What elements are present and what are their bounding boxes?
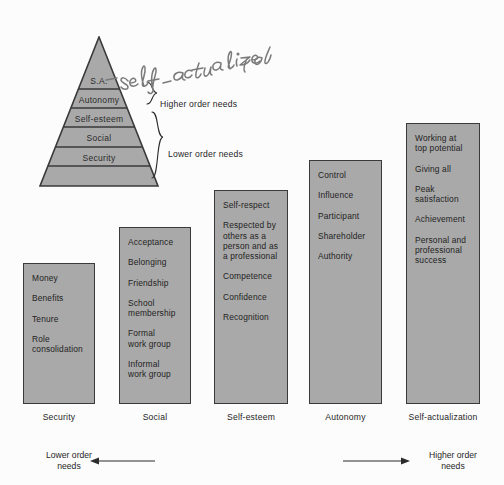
bar-item: Informal work group [128,359,183,380]
footer-lower-order-needs-label: Lower order needs [28,450,110,472]
bar-social: Acceptance Belonging Friendship School m… [119,227,191,404]
handwritten-self-actualized-annotation [104,38,274,96]
bar-item: Authority [318,251,374,261]
bar-item: Personal and professional success [415,235,472,266]
bar-item: Acceptance [128,237,183,247]
bar-item: Peak satisfaction [415,184,472,205]
axis-label-autonomy: Autonomy [309,412,382,422]
bar-item: Money [32,273,87,283]
bar-self-actualization: Working at top potential Giving all Peak… [406,123,480,404]
bar-item: Tenure [32,314,87,324]
bar-item: Giving all [415,164,472,174]
bar-security: Money Benefits Tenure Role consolidation [23,263,95,404]
bar-self-esteem: Self-respect Respected by others as a pe… [214,190,288,404]
bar-item: Self-respect [223,200,280,210]
higher-order-needs-label: Higher order needs [160,99,237,109]
bar-item: Recognition [223,312,280,322]
needs-hierarchy-diagram: S.A. Autonomy Self-esteem Social Securit… [0,0,504,485]
bar-item: Influence [318,190,374,200]
axis-label-self-actualization: Self-actualization [398,412,488,422]
bar-item: Competence [223,271,280,281]
bar-item: Role consolidation [32,334,87,355]
bar-item: Benefits [32,293,87,303]
bar-item: Control [318,170,374,180]
bar-item: Confidence [223,292,280,302]
bar-item: Participant [318,211,374,221]
bar-item: Working at top potential [415,133,472,154]
axis-label-social: Social [119,412,191,422]
axis-label-security: Security [23,412,95,422]
lower-order-needs-label: Lower order needs [168,149,243,159]
bar-item: Friendship [128,278,183,288]
footer-higher-order-needs-label: Higher order needs [412,450,494,472]
bar-item: Respected by others as a person and as a… [223,220,280,261]
bar-item: School membership [128,298,183,319]
bar-item: Belonging [128,257,183,267]
bar-item: Formal work group [128,328,183,349]
bar-item: Achievement [415,214,472,224]
bar-item: Shareholder [318,231,374,241]
arrow-head-right [401,458,410,465]
axis-label-self-esteem: Self-esteem [214,412,288,422]
bar-autonomy: Control Influence Participant Shareholde… [309,160,382,404]
